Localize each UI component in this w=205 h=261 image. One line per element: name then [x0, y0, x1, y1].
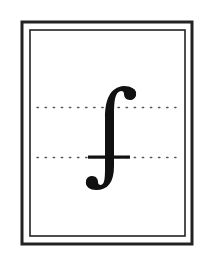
crossbar: [88, 156, 130, 159]
glyph-specimen-diagram: [0, 0, 205, 261]
